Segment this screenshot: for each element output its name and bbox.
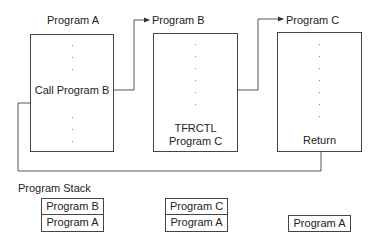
program-c-box: Return (277, 32, 362, 152)
program-b-title: Program B (152, 14, 205, 26)
stack-entry: Program A (165, 215, 228, 232)
ellipsis-dot (319, 104, 320, 105)
ellipsis-dot (72, 129, 73, 130)
ellipsis-dot (195, 68, 196, 69)
stack-entry: Program A (288, 215, 351, 232)
ellipsis-dot (72, 141, 73, 142)
return-statement: Return (278, 134, 361, 147)
program-stack-label: Program Stack (18, 182, 91, 194)
ellipsis-dot (195, 80, 196, 81)
call-arrow-a-to-b (113, 20, 149, 90)
stack-entry: Program C (165, 198, 228, 215)
stack-entry: Program B (41, 198, 104, 215)
ellipsis-dot (72, 117, 73, 118)
ellipsis-dot (319, 56, 320, 57)
ellipsis-dot (195, 44, 196, 45)
tfrctl-keyword: TFRCTL (154, 122, 237, 135)
tfrctl-statement: TFRCTL Program C (154, 122, 237, 148)
program-b-box: TFRCTL Program C (153, 33, 238, 152)
ellipsis-dot (72, 45, 73, 46)
ellipsis-dot (195, 92, 196, 93)
ellipsis-dot (72, 69, 73, 70)
ellipsis-dot (72, 57, 73, 58)
tfrctl-target: Program C (154, 135, 237, 148)
stack-state-3: Program A (288, 215, 351, 232)
program-a-box: Call Program B (30, 34, 114, 152)
ellipsis-dot (195, 56, 196, 57)
program-c-title: Program C (286, 14, 339, 26)
ellipsis-dot (319, 44, 320, 45)
ellipsis-dot (319, 92, 320, 93)
stack-state-1: Program B Program A (41, 198, 104, 232)
program-a-title: Program A (47, 14, 99, 26)
ellipsis-dot (319, 68, 320, 69)
stack-state-2: Program C Program A (165, 198, 228, 232)
ellipsis-dot (195, 104, 196, 105)
stack-entry: Program A (41, 215, 104, 232)
ellipsis-dot (319, 116, 320, 117)
ellipsis-dot (319, 80, 320, 81)
call-statement: Call Program B (31, 84, 113, 97)
